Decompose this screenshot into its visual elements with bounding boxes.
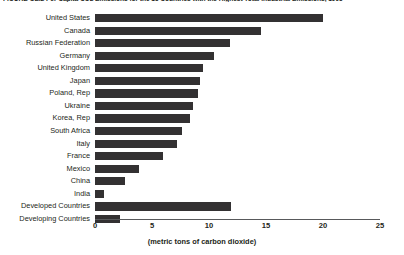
chart-row: Mexico [0,163,404,176]
x-tick-label: 5 [132,221,172,230]
x-tick-label: 0 [75,221,115,230]
x-axis-ticks: 0510152025 [0,221,404,233]
category-label: Korea, Rep [0,112,90,125]
chart-row: Ukraine [0,100,404,113]
plot-area: United StatesCanadaRussian FederationGer… [0,12,404,217]
bar [95,77,200,85]
chart-row: Italy [0,138,404,151]
x-axis-line [95,219,380,220]
category-label: Mexico [0,163,90,176]
category-label: United States [0,12,90,25]
bar [95,14,323,22]
category-label: Ukraine [0,100,90,113]
x-tick-label: 25 [360,221,400,230]
bar [95,52,214,60]
bar [95,127,182,135]
category-label: Japan [0,75,90,88]
chart-row: Russian Federation [0,37,404,50]
chart-row: France [0,150,404,163]
bar [95,39,230,47]
category-label: South Africa [0,125,90,138]
bar [95,202,231,210]
category-label: France [0,150,90,163]
category-label: Italy [0,138,90,151]
bar [95,64,203,72]
chart-row: United Kingdom [0,62,404,75]
chart-row: Germany [0,50,404,63]
category-label: China [0,175,90,188]
bar [95,152,163,160]
category-label: United Kingdom [0,62,90,75]
x-tick-label: 10 [189,221,229,230]
chart-row: Developed Countries [0,200,404,213]
bar [95,165,139,173]
chart-row: Poland, Rep [0,87,404,100]
x-axis-label: (metric tons of carbon dioxide) [0,237,404,246]
bar [95,190,104,198]
category-label: Developed Countries [0,200,90,213]
bar [95,102,193,110]
chart-row: Korea, Rep [0,112,404,125]
chart-row: South Africa [0,125,404,138]
chart-row: China [0,175,404,188]
chart-row: Canada [0,25,404,38]
category-label: Russian Federation [0,37,90,50]
chart-row: Japan [0,75,404,88]
category-label: Germany [0,50,90,63]
category-label: Canada [0,25,90,38]
x-tick-label: 20 [303,221,343,230]
bar [95,89,198,97]
bar [95,140,177,148]
bar [95,27,261,35]
chart-row: United States [0,12,404,25]
chart-figure: FIGURE GE.2 Per Capita CO2 Emissions for… [0,0,404,255]
category-label: India [0,188,90,201]
chart-title: FIGURE GE.2 Per Capita CO2 Emissions for… [3,0,403,2]
category-label: Poland, Rep [0,87,90,100]
chart-row: India [0,188,404,201]
x-tick-label: 15 [246,221,286,230]
bar [95,114,190,122]
bar [95,177,125,185]
